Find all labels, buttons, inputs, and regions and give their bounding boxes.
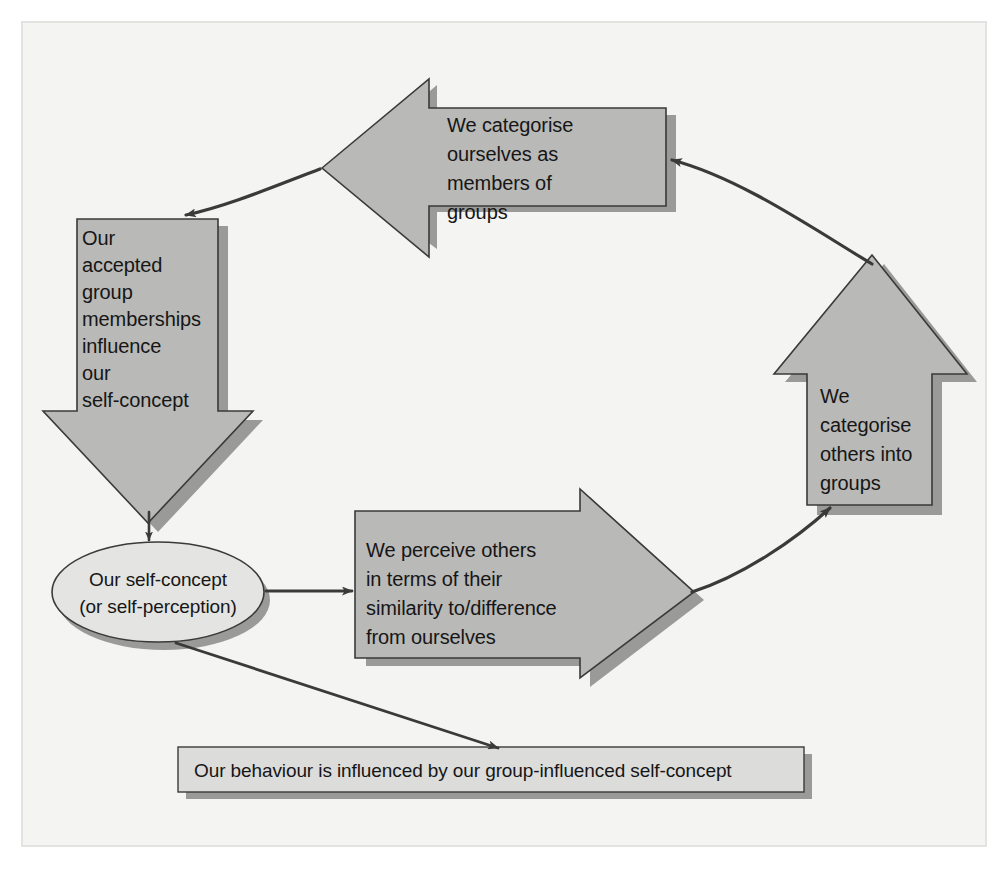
node-categorise-ourselves-line4: groups — [447, 201, 508, 223]
node-self-concept-line1: Our self-concept — [89, 569, 228, 590]
node-categorise-others-line4: groups — [820, 472, 881, 494]
node-group-memberships-line1: Our — [82, 227, 115, 249]
node-categorise-others-line2: categorise — [820, 414, 911, 436]
social-identity-cycle-diagram: We categorise ourselves as members of gr… — [0, 0, 1008, 871]
diagram-stage: We categorise ourselves as members of gr… — [0, 0, 1008, 871]
node-group-memberships-line7: self-concept — [82, 389, 189, 411]
node-group-memberships-line5: influence — [82, 335, 161, 357]
node-group-memberships-line6: our — [82, 362, 111, 384]
node-perceive-others-line2: in terms of their — [366, 568, 503, 590]
node-perceive-others-line4: from ourselves — [366, 626, 496, 648]
node-group-memberships-line4: memberships — [82, 308, 201, 330]
node-group-memberships-line3: group — [82, 281, 133, 303]
node-categorise-others-line1: We — [820, 385, 849, 407]
node-categorise-ourselves-line3: members of — [447, 172, 552, 194]
node-perceive-others-line3: similarity to/difference — [366, 597, 557, 619]
node-self-concept-line2: (or self-perception) — [79, 596, 236, 617]
node-categorise-ourselves-line2: ourselves as — [447, 143, 558, 165]
node-behaviour: Our behaviour is influenced by our group… — [178, 747, 812, 799]
node-categorise-others-line3: others into — [820, 443, 912, 465]
node-group-memberships-line2: accepted — [82, 254, 162, 276]
node-perceive-others-line1: We perceive others — [366, 539, 536, 561]
node-categorise-ourselves-line1: We categorise — [447, 114, 573, 136]
node-self-concept-body — [52, 542, 264, 642]
node-behaviour-line1: Our behaviour is influenced by our group… — [194, 760, 732, 781]
